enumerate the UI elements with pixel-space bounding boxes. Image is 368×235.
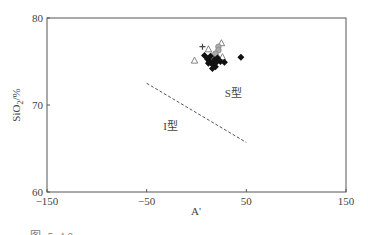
y-tick-label: 70 [32,99,44,111]
figure-caption: 图 5.10 …… [30,227,106,235]
y-tick-label: 60 [32,186,44,198]
scatter-chart: −150−5050150607080 S型I型 A' SiO2/% [0,0,368,235]
data-points [191,40,244,72]
plot-frame [47,18,346,192]
y-tick-label: 80 [32,12,44,24]
x-axis-label: A' [191,205,201,217]
triangle-marker-icon [191,57,197,63]
region-label: S型 [225,86,242,99]
diamond-marker-icon [237,54,244,61]
triangle-marker-icon [205,46,211,52]
x-tick-label: 150 [338,195,355,207]
x-tick-label: 50 [241,195,253,207]
x-tick-label: −50 [138,195,156,207]
plot-border [47,18,346,192]
region-label: I型 [163,119,178,132]
region-labels: S型I型 [163,86,242,132]
plus-marker-icon [199,44,205,50]
axis-ticks: −150−5050150607080 [32,12,355,207]
y-axis-label: SiO2/% [10,88,25,121]
